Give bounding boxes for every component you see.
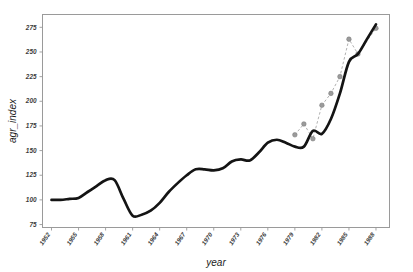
data-point-marker (329, 91, 334, 96)
data-point-marker (302, 122, 307, 127)
figure-background (0, 0, 413, 272)
data-point-marker (347, 37, 352, 42)
data-point-marker (311, 136, 316, 141)
y-tick-label: 125 (26, 171, 37, 178)
y-tick-label: 225 (25, 73, 37, 80)
y-tick-label: 200 (25, 97, 37, 104)
y-tick-label: 150 (26, 147, 37, 154)
y-tick-label: 100 (26, 196, 37, 203)
agr-index-line-chart: 75100125150175200225250275 1952195519581… (0, 0, 413, 272)
y-axis-title: agr_index (7, 98, 18, 143)
chart-figure: 75100125150175200225250275 1952195519581… (0, 0, 413, 272)
y-tick-label: 250 (25, 48, 37, 55)
y-tick-label: 75 (29, 221, 37, 228)
data-point-marker (320, 103, 325, 108)
x-axis-title: year (205, 257, 226, 268)
y-tick-label: 175 (26, 122, 37, 129)
data-point-marker (338, 74, 343, 79)
y-tick-label: 275 (25, 24, 37, 31)
data-point-marker (293, 133, 298, 138)
